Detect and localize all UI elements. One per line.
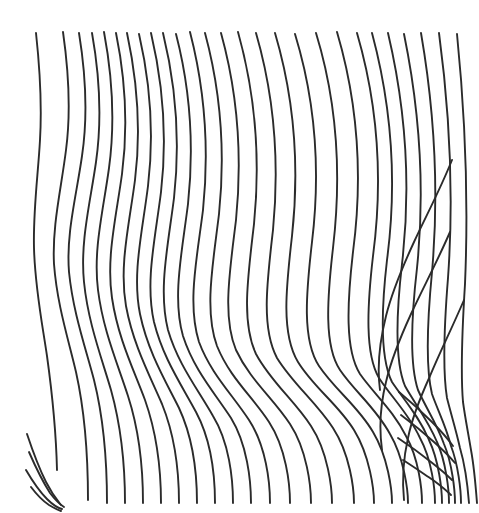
- flow-line-drawing: [0, 0, 479, 513]
- artwork-canvas: [0, 0, 479, 513]
